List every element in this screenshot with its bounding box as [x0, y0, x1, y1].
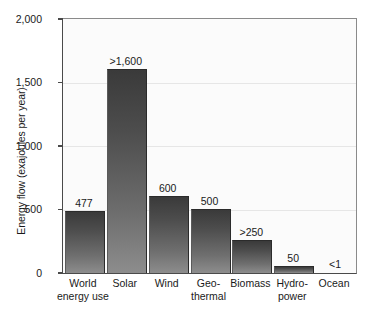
bar-value-label: <1 [295, 259, 368, 270]
bar [191, 209, 231, 274]
y-tick-mark [58, 272, 63, 274]
x-label-line: energy use [41, 290, 125, 303]
bar [149, 196, 189, 273]
bar-value-label: 500 [170, 196, 250, 207]
y-tick-mark [58, 145, 63, 147]
bar [107, 69, 147, 273]
bar-value-label: 600 [128, 183, 208, 194]
plot-area: 05001,0001,5002,000477>1,600600500>25050… [62, 18, 357, 274]
x-axis-category-label: Ocean [292, 277, 368, 290]
y-tick-label: 500 [0, 204, 42, 214]
bar-value-label: >1,600 [86, 56, 166, 67]
y-tick-label: 2,000 [0, 14, 42, 24]
y-tick-mark [58, 82, 63, 84]
y-tick-label: 0 [0, 268, 42, 278]
x-label-line: Ocean [319, 277, 350, 289]
energy-flow-bar-chart: Energy flow (exajoules per year) 05001,0… [0, 0, 368, 314]
y-tick-label: 1,000 [0, 141, 42, 151]
x-label-line: thermal [167, 290, 251, 303]
bar [65, 211, 105, 273]
y-tick-mark [58, 18, 63, 20]
y-tick-label: 1,500 [0, 77, 42, 87]
bar-value-label: >250 [211, 227, 291, 238]
x-label-line: power [250, 290, 334, 303]
